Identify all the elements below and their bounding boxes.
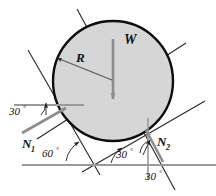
angle-label-groove-60: 60: [42, 147, 54, 159]
mechanics-diagram: W R N 1 N 2 30 ° 60 ° 30 ° 30 °: [0, 0, 216, 196]
angle-label-groove-60-degree: °: [56, 146, 59, 154]
angle-label-left-30-degree: °: [23, 104, 26, 112]
angle-label-left-30: 30: [8, 105, 21, 117]
radius-label: R: [75, 50, 85, 65]
weight-label: W: [124, 32, 138, 47]
angle-arc-left-30: [41, 105, 46, 115]
angle-label-groove-60-group: 60 °: [42, 146, 59, 159]
angle-arc-groove-60: [66, 142, 79, 161]
angle-label-n2-30: 30: [144, 170, 157, 182]
normal-force-1-label-group: N 1: [21, 136, 35, 154]
normal-force-1-arrow: [22, 108, 66, 133]
figure-canvas: W R N 1 N 2 30 ° 60 ° 30 ° 30 °: [0, 0, 216, 196]
angle-label-left-30-group: 30 °: [8, 104, 26, 117]
normal-force-2-label-group: N 2: [156, 134, 170, 152]
angle-label-n2-30-group: 30 °: [144, 169, 162, 182]
angle-label-right-incline-30-degree: °: [130, 147, 133, 155]
angle-label-right-incline-30-group: 30 °: [115, 147, 133, 160]
angle-label-right-incline-30: 30: [115, 148, 128, 160]
angle-label-n2-30-degree: °: [159, 169, 162, 177]
normal-force-2-subscript: 2: [165, 143, 170, 152]
normal-force-1-subscript: 1: [31, 145, 35, 154]
